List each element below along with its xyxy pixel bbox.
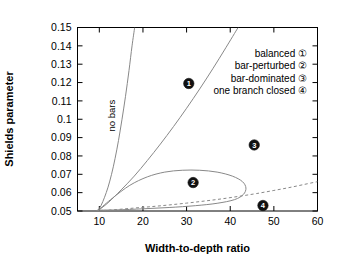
x-tick-label: 50 xyxy=(268,215,280,227)
marker-3: 3 xyxy=(249,140,259,150)
legend-item-3: bar-dominated ③ xyxy=(231,73,307,84)
shields-parameter-chart: 102030405060 0.050.060.070.080.090.10.11… xyxy=(0,0,340,261)
y-axis-tick-labels: 0.050.060.070.080.090.10.110.120.130.140… xyxy=(51,21,72,217)
y-axis-title: Shields parameter xyxy=(3,71,15,167)
marker-1: 1 xyxy=(184,78,194,88)
y-tick-label: 0.11 xyxy=(52,95,72,107)
x-tick-label: 20 xyxy=(137,215,149,227)
x-tick-label: 40 xyxy=(224,215,236,227)
annotation-no-bars: no bars xyxy=(106,99,117,131)
legend-item-4: one branch closed ④ xyxy=(213,85,307,96)
chart-figure: 102030405060 0.050.060.070.080.090.10.11… xyxy=(0,0,340,261)
x-axis-title: Width-to-depth ratio xyxy=(145,242,250,254)
y-tick-label: 0.1 xyxy=(57,113,72,125)
legend-item-1: balanced ① xyxy=(255,48,307,59)
y-tick-label: 0.12 xyxy=(51,76,72,88)
y-tick-label: 0.15 xyxy=(51,21,72,33)
data-point-markers: 1234 xyxy=(184,78,269,210)
y-tick-label: 0.06 xyxy=(51,186,72,198)
y-tick-label: 0.13 xyxy=(51,58,72,70)
y-tick-label: 0.05 xyxy=(51,205,72,217)
y-tick-label: 0.08 xyxy=(51,150,72,162)
x-axis-tick-labels: 102030405060 xyxy=(93,215,323,227)
marker-number-2: 2 xyxy=(191,178,195,187)
marker-4: 4 xyxy=(258,200,268,210)
y-tick-label: 0.09 xyxy=(51,131,72,143)
plot-annotations: no bars xyxy=(106,99,117,131)
legend-item-2: bar-perturbed ② xyxy=(235,60,307,71)
chart-legend: balanced ①bar-perturbed ②bar-dominated ③… xyxy=(213,48,307,96)
x-tick-label: 60 xyxy=(312,215,324,227)
x-tick-label: 30 xyxy=(181,215,193,227)
y-tick-label: 0.07 xyxy=(51,168,72,180)
y-tick-label: 0.14 xyxy=(51,40,72,52)
curve-second-mode-threshold xyxy=(98,28,239,212)
marker-number-1: 1 xyxy=(187,79,191,88)
x-tick-label: 10 xyxy=(93,215,105,227)
curve-lower-branch-dashed xyxy=(98,182,318,211)
marker-number-3: 3 xyxy=(252,141,256,150)
marker-2: 2 xyxy=(188,177,198,187)
